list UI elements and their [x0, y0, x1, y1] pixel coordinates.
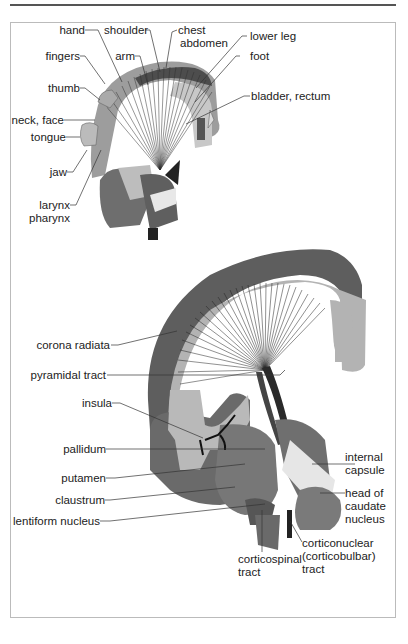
- label-pharynx: pharynx: [20, 212, 70, 225]
- label-lentiform-nucleus: lentiform nucleus: [0, 515, 100, 528]
- label-corona-radiata: corona radiata: [10, 339, 110, 352]
- label-shoulder: shoulder: [104, 24, 148, 37]
- label-jaw: jaw: [30, 166, 67, 179]
- label-corticospinal-2: tract: [238, 566, 260, 579]
- label-neck-face: neck, face: [0, 114, 64, 127]
- label-chest: chest: [178, 24, 206, 37]
- label-abdomen: abdomen: [180, 37, 228, 50]
- label-internal-capsule-1: internal: [345, 451, 383, 464]
- label-corticonuclear-3: tract: [302, 563, 324, 576]
- label-foot: foot: [250, 50, 269, 63]
- label-internal-capsule-2: capsule: [345, 464, 385, 477]
- label-pallidum: pallidum: [20, 443, 106, 456]
- label-corticospinal-1: corticospinal: [238, 553, 302, 566]
- label-larynx: larynx: [20, 199, 70, 212]
- top-brain-section: [80, 61, 219, 240]
- label-corticonuclear-2: (corticobulbar): [302, 550, 376, 563]
- label-bladder-rectum: bladder, rectum: [251, 90, 330, 103]
- label-lower-leg: lower leg: [250, 30, 296, 43]
- label-claustrum: claustrum: [20, 494, 105, 507]
- label-head-of-caudate-1: head of: [345, 487, 383, 500]
- label-insula: insula: [40, 397, 112, 410]
- label-fingers: fingers: [30, 50, 80, 63]
- label-putamen: putamen: [20, 472, 106, 485]
- label-corticonuclear-1: corticonuclear: [302, 537, 374, 550]
- label-hand: hand: [40, 24, 85, 37]
- label-pyramidal-tract: pyramidal tract: [10, 369, 106, 382]
- label-head-of-caudate-2: caudate: [345, 500, 386, 513]
- label-tongue: tongue: [10, 131, 66, 144]
- label-thumb: thumb: [30, 82, 80, 95]
- label-head-of-caudate-3: nucleus: [345, 513, 385, 526]
- label-arm: arm: [110, 50, 135, 63]
